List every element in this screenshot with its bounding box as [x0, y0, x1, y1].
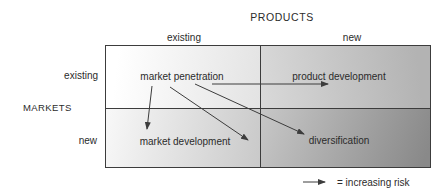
legend-increasing-risk-text: = increasing risk: [337, 177, 410, 188]
label-product-development: product development: [292, 71, 385, 82]
label-diversification: diversification: [309, 135, 370, 146]
column-header-new: new: [343, 32, 361, 43]
column-header-existing: existing: [167, 32, 201, 43]
row-header-existing: existing: [64, 70, 98, 81]
ansoff-growth-matrix-diagram: PRODUCTS MARKETS existing new existing n…: [0, 0, 437, 196]
matrix-grid: [105, 45, 431, 168]
label-market-development: market development: [140, 136, 231, 147]
label-market-penetration: market penetration: [140, 71, 223, 82]
products-axis-title: PRODUCTS: [250, 12, 314, 23]
row-header-new: new: [79, 135, 97, 146]
markets-axis-title: MARKETS: [23, 102, 72, 113]
